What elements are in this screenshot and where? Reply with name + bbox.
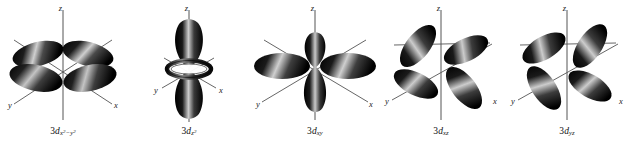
orbital-panel-3d-yz: z y x 3dyz [504,0,630,150]
orbital-caption-3d-yz: 3dyz [504,126,630,136]
orbital-lobes [167,19,211,119]
orbital-diagram-3d-xz: z y x [378,0,504,126]
caption-sub-var2: z [446,129,449,136]
axis-label-y: y [7,100,12,110]
caption-sub-var2: y [320,129,323,136]
caption-sub-exp1: 2 [194,129,197,134]
axis-label-y: y [384,96,389,106]
orbital-caption-3d-z2: 3dz2 [126,126,252,136]
axis-label-x: x [368,99,373,109]
d-orbital-figure: z y x 3dx2−y2 [0,0,630,150]
axis-label-x: x [492,96,497,106]
axis-label-x: x [618,96,623,106]
axis-label-x: x [113,100,118,110]
orbital-caption-3d-xz: 3dxz [378,126,504,136]
caption-sub-var2: z [572,129,575,136]
orbital-panel-3d-xz: z y x 3dxz [378,0,504,150]
orbital-diagram-3d-xy: z y x [252,0,378,126]
axis-label-z: z [310,3,315,13]
orbital-panel-3d-z2: z y x 3dz2 [126,0,252,150]
axis-label-z: z [562,3,567,13]
orbital-panel-3d-x2-y2: z y x 3dx2−y2 [0,0,126,150]
orbital-diagram-3d-x2-y2: z y x [0,0,126,126]
orbital-lobes [254,32,376,112]
axis-label-y: y [255,99,260,109]
axis-label-z: z [184,3,189,13]
axis-label-y: y [510,96,515,106]
orbital-diagram-3d-yz: z y x [504,0,630,126]
axis-label-y: y [153,85,158,95]
orbital-diagram-3d-z2: z y x [126,0,252,126]
orbital-caption-3d-x2-y2: 3dx2−y2 [0,126,126,136]
orbital-panel-3d-xy: z y x 3dxy [252,0,378,150]
axis-label-z: z [58,3,63,13]
orbital-caption-3d-xy: 3dxy [252,126,378,136]
axis-label-z: z [436,3,441,13]
caption-sub-exp2: 2 [73,129,76,134]
axis-label-x: x [218,85,223,95]
